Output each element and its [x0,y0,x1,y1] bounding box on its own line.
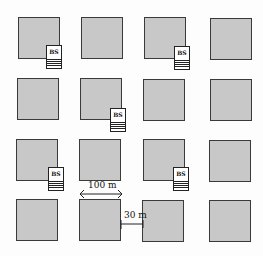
base-station-antenna-lines [174,181,188,189]
base-station-label: BS [49,170,63,178]
base-station-icon: BS [173,167,189,191]
building-block-r4c1 [16,199,58,241]
building-block-r1c2 [81,17,123,59]
base-station-antenna-lines [47,59,61,67]
base-station-antenna-lines [175,60,189,68]
base-station-icon: BS [46,45,62,69]
base-station-label: BS [174,170,188,178]
building-block-r3c2 [79,139,121,181]
street-width-label: 30 m [124,210,147,220]
building-block-r4c3 [142,200,184,242]
base-station-icon: BS [48,167,64,191]
building-block-r2c1 [17,78,59,120]
building-block-r1c4 [210,18,252,60]
base-station-antenna-lines [111,122,125,130]
base-station-antenna-lines [49,181,63,189]
block-width-label: 100 m [88,180,117,190]
building-block-r2c4 [210,79,252,121]
building-block-r2c3 [143,79,185,121]
base-station-label: BS [175,49,189,57]
building-block-r4c2 [79,199,121,241]
base-station-icon: BS [174,46,190,70]
base-station-label: BS [111,111,125,119]
building-block-r3c4 [209,140,251,182]
base-station-label: BS [47,48,61,56]
base-station-icon: BS [110,108,126,132]
building-block-r4c4 [209,200,251,242]
